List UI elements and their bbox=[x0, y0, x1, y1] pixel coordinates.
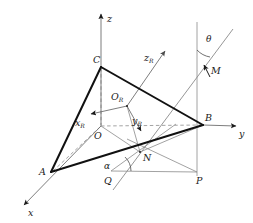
geometry-diagram-root: C A B O N M P Q OR z y x zR xR yR bbox=[0, 0, 253, 223]
label-point-o-r: OR bbox=[111, 91, 124, 103]
axis-x-r bbox=[91, 106, 127, 114]
label-point-c: C bbox=[93, 54, 101, 65]
edge-a-b bbox=[51, 125, 203, 172]
label-point-m: M bbox=[210, 65, 221, 76]
rotated-axes-group bbox=[91, 51, 165, 131]
label-angle-alpha: α bbox=[104, 161, 110, 171]
angle-arc-theta bbox=[197, 50, 210, 57]
dot-o-r bbox=[126, 105, 128, 107]
dot-n bbox=[139, 151, 141, 153]
label-point-o: O bbox=[94, 130, 102, 141]
label-axis-x: x bbox=[28, 207, 34, 218]
label-x-r-subscript: R bbox=[79, 122, 85, 129]
label-o-r-base: O bbox=[111, 91, 119, 102]
ray-m-arrow-segment bbox=[204, 65, 210, 77]
line-q-to-n-extended bbox=[111, 124, 176, 171]
label-point-q: Q bbox=[104, 175, 112, 186]
label-axis-y: y bbox=[238, 128, 245, 139]
label-point-n: N bbox=[142, 152, 152, 163]
label-z-r-subscript: R bbox=[148, 57, 154, 64]
label-point-a: A bbox=[38, 166, 46, 177]
label-axis-x-r: xR bbox=[75, 117, 85, 129]
slanted-ray-group bbox=[113, 29, 233, 190]
label-y-r-subscript: R bbox=[136, 120, 142, 127]
line-q-to-p bbox=[111, 171, 197, 172]
line-n-to-b bbox=[140, 125, 203, 152]
ray-through-m bbox=[113, 29, 233, 190]
axis-x bbox=[24, 126, 101, 205]
label-point-p: P bbox=[195, 175, 203, 186]
axis-y bbox=[203, 125, 236, 126]
label-axis-y-r: yR bbox=[131, 115, 142, 127]
label-o-r-subscript: R bbox=[118, 96, 124, 103]
label-angle-theta: θ bbox=[206, 34, 212, 44]
geometry-canvas: C A B O N M P Q OR z y x zR xR yR bbox=[0, 0, 253, 223]
label-point-b: B bbox=[204, 112, 212, 123]
label-axis-z-r: zR bbox=[143, 52, 154, 64]
text-labels: C A B O N M P Q OR z y x zR xR yR bbox=[28, 13, 245, 218]
dashed-o-to-b bbox=[101, 125, 201, 126]
label-axis-z: z bbox=[106, 13, 113, 24]
triangle-abc bbox=[51, 67, 203, 172]
world-axes-group bbox=[24, 14, 236, 205]
